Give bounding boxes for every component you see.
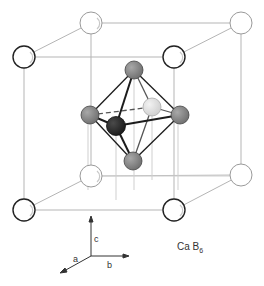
b-atom-right [171,106,189,124]
ca-atom-front-bottom-right [163,199,185,221]
ca-atom-front-top-right [163,46,185,68]
compound-label: Ca B6 [177,241,203,254]
b6-octahedron-bonds [90,70,180,161]
compound-label-subscript: 6 [199,247,203,254]
cab6-crystal-structure-diagram: c b a Ca B6 [0,0,264,286]
b-atom-top [125,61,143,79]
axis-label-c: c [94,234,99,244]
b-atom-left [81,106,99,124]
unit-cell-edges [24,23,241,210]
ca-atom-back-top-left [80,12,102,34]
ca-atom-highlights [30,18,183,216]
axis-indicator [60,216,129,273]
b-atom-front [107,117,126,136]
b-atom-back [143,98,161,116]
ca-atom-front-top-left [13,46,35,68]
ca-atom-front-bottom-left [13,199,35,221]
ca-atoms-front [13,46,185,221]
axis-label-b: b [107,260,112,270]
axis-label-a: a [73,254,78,264]
ca-atom-back-top-right [230,12,252,34]
b-atom-bottom [124,152,142,170]
compound-label-prefix: Ca B [177,241,200,252]
b-atoms [81,61,189,170]
ca-atom-back-bottom-left [80,165,102,187]
ca-atom-back-bottom-right [230,164,252,186]
